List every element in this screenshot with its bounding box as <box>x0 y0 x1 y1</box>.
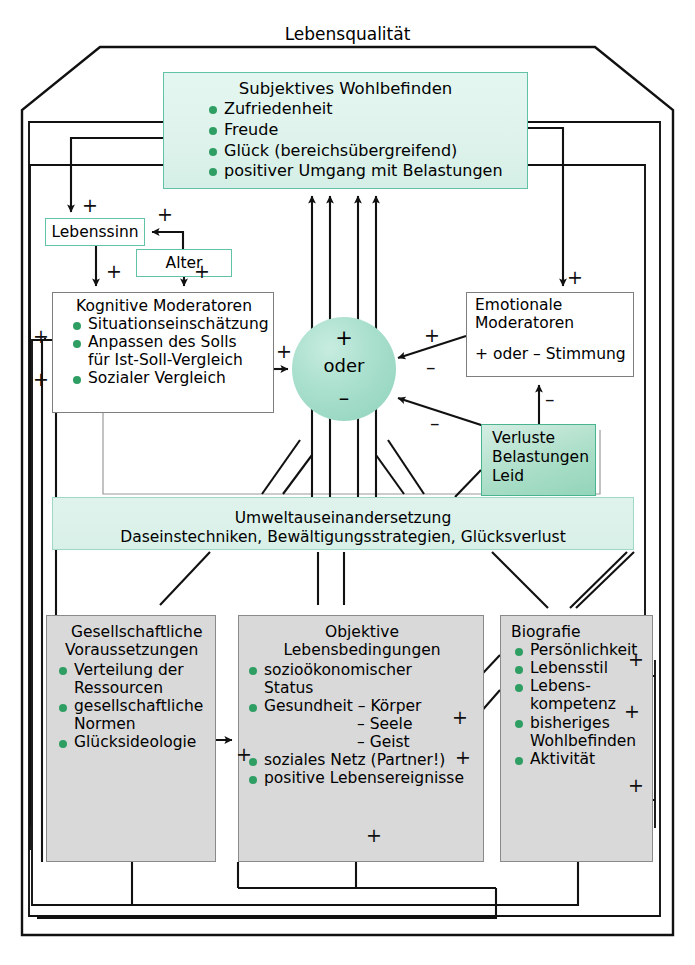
list-item: gesellschaftliche <box>57 697 211 715</box>
gesell-cont-2: Normen <box>57 715 211 733</box>
list-item: sozioökonomischer <box>247 661 479 679</box>
bullet-dot-icon <box>73 376 81 384</box>
lebenssinn-label: Lebenssinn <box>51 223 138 241</box>
sign-verluste-circle: – <box>430 414 440 433</box>
gesell-item-1: gesellschaftliche <box>74 697 203 715</box>
edge-verluste-umwelt <box>455 470 481 497</box>
list-item: Zufriedenheit <box>207 99 517 120</box>
bullet-dot-icon <box>515 666 523 674</box>
gesell-cont-1: Ressourcen <box>57 679 211 697</box>
list-item: positive Lebensereignisse <box>247 769 479 787</box>
swb-list: Zufriedenheit Freude Glück (bereichsüber… <box>174 99 517 182</box>
sign-verluste-emomod: – <box>545 390 555 409</box>
list-item: Glück (bereichsübergreifend) <box>207 141 517 162</box>
sign-swb-emomod: + <box>567 268 583 287</box>
sign-into-aktivitaet: + <box>628 776 644 795</box>
objektiv-title-line1: Objektive <box>245 623 479 641</box>
node-lebenssinn[interactable]: Lebenssinn <box>45 218 145 246</box>
list-item: Gesundheit – Körper <box>247 697 479 715</box>
kogmod-list: Situationseinschätzung Anpassen des Soll… <box>59 315 269 388</box>
verluste-line3: Leid <box>492 467 595 486</box>
kogmod-item-2: Sozialer Vergleich <box>88 369 226 387</box>
objektiv-list: sozioökonomischer Status Gesundheit – Kö… <box>245 661 479 788</box>
edge-umwelt-biografie-1 <box>492 552 548 608</box>
sign-alter-kogmod: + <box>194 262 210 281</box>
node-subjektives-wohlbefinden[interactable]: Subjektives Wohlbefinden Zufriedenheit F… <box>163 72 528 189</box>
sign-into-lebenskompetenz: + <box>624 702 640 721</box>
splay-4 <box>388 440 424 494</box>
list-item: soziales Netz (Partner!) <box>247 751 479 769</box>
objektiv-item-0: sozioökonomischer <box>264 661 412 679</box>
biografie-title: Biografie <box>509 623 648 641</box>
swb-item-0: Zufriedenheit <box>224 99 332 118</box>
splay-2 <box>376 455 404 494</box>
bullet-dot-icon <box>73 322 81 330</box>
biografie-item-3: bisheriges <box>530 714 610 732</box>
node-gesellschaftliche-voraussetzungen[interactable]: Gesellschaftliche Voraussetzungen Vertei… <box>46 615 216 862</box>
list-item: Verteilung der <box>57 661 211 679</box>
bullet-dot-icon <box>209 106 217 114</box>
node-umweltauseinandersetzung[interactable]: Umweltauseinandersetzung Daseinstechnike… <box>52 497 634 550</box>
edge-umwelt-gesell <box>160 552 210 605</box>
node-emotionale-moderatoren[interactable]: Emotionale Moderatoren + oder – Stimmung <box>466 292 634 377</box>
bullet-dot-icon <box>59 667 67 675</box>
node-alter[interactable]: Alter <box>136 249 232 277</box>
sign-lebenssinn-kogmod: + <box>106 262 122 281</box>
bullet-dot-icon <box>249 776 257 784</box>
node-center-oder[interactable]: + oder – <box>292 317 396 421</box>
list-item: Anpassen des Solls <box>71 333 269 351</box>
edge-alter-lebenssinn <box>152 232 183 250</box>
bullet-dot-icon <box>515 720 523 728</box>
sign-emomod-circle-plus: + <box>424 326 440 345</box>
objektiv-sub-seele: – Seele <box>247 715 479 733</box>
swb-item-3: positiver Umgang mit Belastungen <box>224 161 503 180</box>
list-item: Freude <box>207 120 517 141</box>
umwelt-line2: Daseinstechniken, Bewältigungsstrategien… <box>53 528 633 546</box>
verluste-line2: Belastungen <box>492 448 595 467</box>
emomod-line1: Emotionale <box>475 297 627 315</box>
objektiv-title-line2: Lebensbedingungen <box>245 641 479 659</box>
sign-left-kogmod-1: + <box>33 327 49 346</box>
bullet-dot-icon <box>515 757 523 765</box>
kogmod-item-0: Situationseinschätzung <box>88 315 269 333</box>
bullet-dot-icon <box>59 704 67 712</box>
gesell-title-line2: Voraussetzungen <box>53 641 211 659</box>
node-objektive-lebensbedingungen[interactable]: Objektive Lebensbedingungen sozioökonomi… <box>238 615 484 862</box>
objektiv-item-2: soziales Netz (Partner!) <box>264 751 445 769</box>
node-verluste-belastungen-leid[interactable]: Verluste Belastungen Leid <box>481 424 596 496</box>
circle-label: oder <box>292 355 396 376</box>
objektiv-cont-status-label: Status <box>264 679 313 697</box>
diagram-title: Lebensqualität <box>0 24 695 44</box>
bullet-dot-icon <box>515 684 523 692</box>
list-item: Aktivität <box>513 750 648 768</box>
list-item: Lebens- <box>513 677 648 695</box>
sign-left-objektiv: + <box>236 745 252 764</box>
sign-kogmod-circle: + <box>276 342 292 361</box>
sign-into-lebensstil: + <box>628 650 644 669</box>
gesell-item-2: Glücksideologie <box>74 733 196 751</box>
objektiv-sub-seele-label: – Seele <box>357 715 412 733</box>
sign-swb-lebenssinn: + <box>82 196 98 215</box>
sign-left-kogmod-2: + <box>33 370 49 389</box>
list-item: Glücksideologie <box>57 733 211 751</box>
umwelt-line1: Umweltauseinandersetzung <box>53 509 633 527</box>
bullet-dot-icon <box>249 667 257 675</box>
splay-1 <box>283 455 312 494</box>
objektiv-sub-geist-label: – Geist <box>357 733 410 751</box>
biografie-item-1: Lebensstil <box>530 659 608 677</box>
sign-bottom-objektiv: + <box>366 826 382 845</box>
bullet-dot-icon <box>73 340 81 348</box>
biografie-item-4: Aktivität <box>530 750 595 768</box>
gesell-cont-2-label: Normen <box>74 715 136 733</box>
objektiv-item-3: positive Lebensereignisse <box>264 769 464 787</box>
gesell-title-line1: Gesellschaftliche <box>53 623 211 641</box>
kogmod-subline: für Ist-Soll-Vergleich <box>71 351 269 369</box>
sign-alter-lebenssinn: + <box>157 205 173 224</box>
kogmod-item-1: Anpassen des Solls <box>88 333 237 351</box>
node-kognitive-moderatoren[interactable]: Kognitive Moderatoren Situationseinschät… <box>52 292 274 413</box>
bullet-dot-icon <box>209 148 217 156</box>
list-item: Sozialer Vergleich <box>71 369 269 387</box>
biografie-cont-wohlbefinden: Wohlbefinden <box>513 732 648 750</box>
gesell-cont-1-label: Ressourcen <box>74 679 163 697</box>
swb-item-2: Glück (bereichsübergreifend) <box>224 141 457 160</box>
